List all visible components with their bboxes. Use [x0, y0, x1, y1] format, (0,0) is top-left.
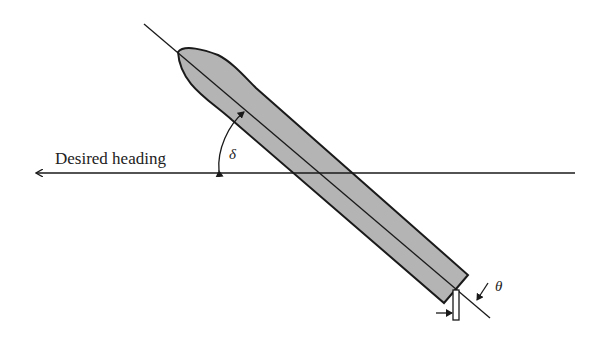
theta-arrow	[477, 283, 488, 300]
theta-label: θ	[495, 278, 503, 294]
desired-heading-label: Desired heading	[55, 149, 166, 168]
ship-heading-diagram: Desired heading δ θ	[0, 0, 606, 339]
rudder	[453, 290, 459, 320]
delta-label: δ	[229, 146, 237, 162]
ship-centerline	[144, 24, 490, 318]
